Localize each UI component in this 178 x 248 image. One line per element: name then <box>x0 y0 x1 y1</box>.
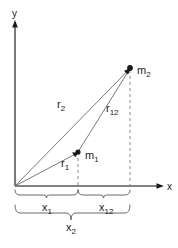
point-m1-dot <box>75 149 80 154</box>
point-label-m1-base: m <box>85 149 94 161</box>
distance-label-x2-subscript: 2 <box>72 227 77 236</box>
distance-label-x1: x1 <box>42 201 53 216</box>
distance-label-x12: x12 <box>99 201 114 216</box>
vector-label-r12-subscript: 12 <box>110 108 119 117</box>
vector-label-r12: r12 <box>106 102 119 117</box>
distance-label-x1-subscript: 1 <box>48 207 53 216</box>
point-label-m1-subscript: 1 <box>94 155 99 164</box>
point-label-m1: m1 <box>85 149 99 164</box>
axes-group <box>12 20 164 189</box>
vector-r12-line <box>78 72 128 153</box>
distance-label-x2: x2 <box>66 221 77 236</box>
x-axis-arrowhead <box>157 183 165 189</box>
labels-group: y x m1 m2 r1 r2 r12 x <box>12 8 172 236</box>
brace-x12 <box>78 190 130 198</box>
y-axis-arrowhead <box>12 20 18 28</box>
point-label-m2: m2 <box>137 64 151 79</box>
brace-x1 <box>15 190 78 198</box>
point-label-m2-subscript: 2 <box>146 70 151 79</box>
vectors-group <box>15 68 131 186</box>
x-axis-label: x <box>167 181 172 192</box>
vector-r2-line <box>15 71 128 186</box>
distance-label-x12-subscript: 12 <box>105 207 114 216</box>
projection-lines-group <box>78 70 130 186</box>
vector-label-r2-subscript: 2 <box>61 104 66 113</box>
point-label-m2-base: m <box>137 64 146 76</box>
vector-label-r2: r2 <box>57 98 66 113</box>
physics-diagram: y x m1 m2 r1 r2 r12 x <box>0 0 178 248</box>
y-axis-label: y <box>12 8 17 19</box>
vector-label-r1-subscript: 1 <box>65 163 70 172</box>
figure-container: y x m1 m2 r1 r2 r12 x <box>0 0 178 248</box>
point-m2-dot <box>127 65 133 71</box>
